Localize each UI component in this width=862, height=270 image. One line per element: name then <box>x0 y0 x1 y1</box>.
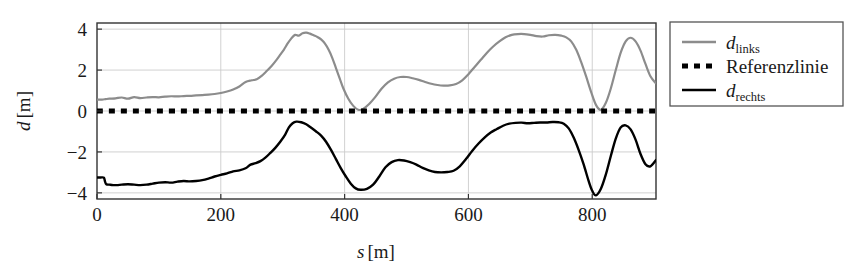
chart-legend: dlinksReferenzliniedrechts <box>670 22 843 106</box>
x-axis-title: s[m] <box>357 241 395 262</box>
svg-text:d[m]: d[m] <box>13 91 34 131</box>
x-tick-label: 400 <box>330 204 359 225</box>
x-tick-label: 0 <box>92 204 102 225</box>
y-axis-symbol: d <box>13 121 34 131</box>
y-axis-title: d[m] <box>13 91 34 131</box>
x-tick-label: 800 <box>578 204 607 225</box>
legend-label-referenzlinie: Referenzlinie <box>726 56 828 77</box>
y-axis-unit: [m] <box>13 91 34 118</box>
chart-svg: 0200400600800 −4−2024 s[m] d[m] dlinksRe… <box>0 0 862 270</box>
y-tick-label: 0 <box>78 101 88 122</box>
y-tick-label: −4 <box>67 183 88 204</box>
x-axis-unit: [m] <box>367 241 394 262</box>
x-tick-label: 600 <box>454 204 483 225</box>
y-tick-label: 2 <box>78 60 88 81</box>
chart-figure: 0200400600800 −4−2024 s[m] d[m] dlinksRe… <box>0 0 862 270</box>
x-tick-label: 200 <box>207 204 236 225</box>
svg-text:s[m]: s[m] <box>357 241 395 262</box>
x-axis-symbol: s <box>357 241 364 262</box>
y-tick-label: 4 <box>78 19 88 40</box>
y-tick-label: −2 <box>67 142 87 163</box>
